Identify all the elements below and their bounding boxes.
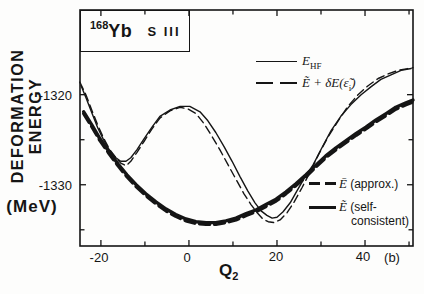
isotope-mass-number: 168 — [90, 19, 108, 31]
ebar-approx-text: (approx.) — [350, 177, 398, 191]
legend-sample-thin-solid — [256, 61, 297, 62]
y-axis-unit: (MeV) — [0, 197, 64, 217]
legend-label-etilde-selfconsistent: Ẽ (self- — [339, 199, 377, 215]
dash-segment — [309, 182, 320, 185]
legend-sample-thick-dashed — [309, 182, 336, 185]
force-label: S III — [147, 24, 180, 39]
etilde-deltae-close: ) — [351, 75, 355, 90]
x-tick-label-0: 0 — [170, 250, 204, 265]
x-tick-label--20: -20 — [82, 250, 116, 265]
x-axis-title-sub: 2 — [232, 270, 238, 282]
dash-segment — [325, 182, 336, 185]
legend-sample-thick-solid — [309, 206, 336, 209]
y-tick-label--1320: -1320 — [34, 88, 72, 103]
figure-deformation-energy-plot: DEFORMATION ENERGY (MeV) -1320 -1330 -20… — [0, 0, 424, 294]
x-axis-unit: (b) — [375, 250, 409, 265]
y-tick-label--1330: -1330 — [34, 178, 72, 193]
legend-label-ebar-approx: Ē (approx.) — [339, 176, 398, 192]
ehf-subscript: HF — [310, 61, 322, 71]
selfconsistent-text-line1: (self- — [350, 200, 377, 214]
etilde-deltae-main: Ẽ + δE(ε̃ — [302, 75, 349, 90]
ehf-symbol: E — [302, 53, 310, 68]
selfconsistent-text-line2: consistent) — [351, 214, 409, 228]
dash-segment — [280, 82, 297, 84]
isotope-symbol: Yb — [108, 21, 132, 42]
ebar-symbol: Ē — [339, 176, 347, 191]
isotope-title-box: 168YbS III — [80, 10, 190, 52]
legend-sample-thin-dashed — [256, 82, 297, 84]
y-axis-title: DEFORMATION ENERGY — [9, 6, 31, 226]
legend-label-ehf: EHF — [302, 53, 321, 71]
legend-label-etilde-deltae: Ẽ + δE(ε̃i) — [302, 75, 356, 93]
x-axis-title: Q2 — [219, 261, 238, 282]
dash-segment — [256, 82, 273, 84]
etilde-symbol: Ẽ — [339, 199, 347, 214]
x-axis-title-main: Q — [219, 261, 232, 280]
x-tick-label-20: 20 — [259, 249, 293, 264]
